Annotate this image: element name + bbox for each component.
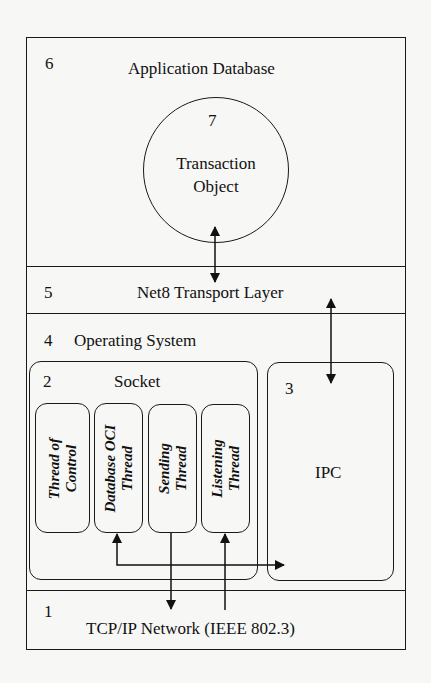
- transaction-object-label-line2: Object: [166, 178, 266, 195]
- divider-layer-4-top: [26, 313, 406, 314]
- layer-5-number: 5: [44, 284, 53, 301]
- socket-number: 2: [43, 373, 52, 390]
- database-oci-thread-line1: Database OCI: [102, 424, 119, 512]
- database-oci-thread-line2: Thread: [119, 424, 136, 512]
- ipc-label: IPC: [315, 464, 341, 481]
- layer-4-number: 4: [44, 332, 53, 349]
- transaction-object-number: 7: [208, 112, 217, 129]
- sending-thread-line2: Thread: [173, 443, 190, 494]
- listening-thread-line2: Thread: [226, 439, 243, 497]
- thread-of-control-line2: Control: [63, 437, 80, 498]
- database-oci-thread: Database OCI Thread: [94, 403, 143, 533]
- ipc-box: 3 IPC: [267, 362, 394, 581]
- divider-layer-5-top: [26, 266, 406, 267]
- socket-label: Socket: [114, 373, 160, 390]
- layer-5-label: Net8 Transport Layer: [137, 284, 283, 301]
- transaction-object-label-line1: Transaction: [166, 155, 266, 172]
- divider-layer-1-top: [26, 590, 406, 591]
- layer-4-label: Operating System: [74, 332, 196, 349]
- listening-thread: Listening Thread: [201, 404, 250, 533]
- thread-of-control: Thread of Control: [35, 403, 90, 533]
- layer-1-number: 1: [44, 603, 53, 620]
- layer-1-label: TCP/IP Network (IEEE 802.3): [86, 620, 295, 637]
- ipc-number: 3: [285, 380, 294, 397]
- thread-of-control-line1: Thread of: [46, 437, 63, 498]
- sending-thread: Sending Thread: [148, 404, 197, 533]
- layer-6-label: Application Database: [128, 60, 275, 77]
- sending-thread-line1: Sending: [156, 443, 173, 494]
- transaction-object: 7 Transaction Object: [143, 97, 289, 243]
- listening-thread-line1: Listening: [209, 439, 226, 497]
- layer-6-number: 6: [45, 55, 54, 72]
